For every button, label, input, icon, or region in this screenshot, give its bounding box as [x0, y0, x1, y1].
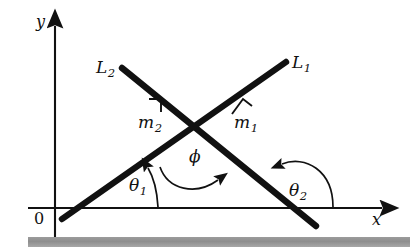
slope-label-m2: m2 — [138, 114, 162, 134]
slope-label-m1: m1 — [234, 114, 258, 134]
x-axis-label: x — [372, 212, 381, 228]
diagram-vector-layer — [0, 0, 410, 251]
line-L2 — [122, 68, 316, 226]
line-label-L2-base: L — [96, 57, 107, 77]
line-label-L2-subscript: 2 — [107, 66, 115, 80]
y-axis-label: y — [36, 14, 45, 30]
angle-label-theta1: θ1 — [129, 177, 147, 197]
bottom-gray-bar — [28, 237, 410, 247]
angle-label-phi: ϕ — [189, 148, 201, 165]
slope-label-m2-subscript: 2 — [154, 121, 162, 135]
theta1-arc — [148, 168, 158, 207]
line-label-L2: L2 — [96, 59, 115, 79]
figure-canvas: x y 0 L1 L2 m1 m2 θ1 θ2 ϕ — [0, 0, 410, 251]
angle-label-theta2: θ2 — [289, 182, 307, 202]
angle-label-theta1-symbol: θ — [129, 175, 139, 195]
angle-label-theta2-symbol: θ — [289, 180, 299, 200]
slope-label-m1-base: m — [234, 112, 250, 132]
line-label-L1: L1 — [292, 54, 311, 74]
line-L1 — [62, 62, 286, 219]
line-label-L1-base: L — [292, 52, 303, 72]
phi-arc — [160, 167, 218, 189]
origin-label: 0 — [34, 211, 44, 227]
slope-label-m2-base: m — [138, 112, 154, 132]
slope-label-m1-subscript: 1 — [250, 121, 258, 135]
line-label-L1-subscript: 1 — [303, 61, 311, 75]
angle-label-theta2-subscript: 2 — [299, 189, 307, 203]
angle-label-theta1-subscript: 1 — [139, 184, 147, 198]
angle-label-phi-symbol: ϕ — [189, 146, 201, 166]
